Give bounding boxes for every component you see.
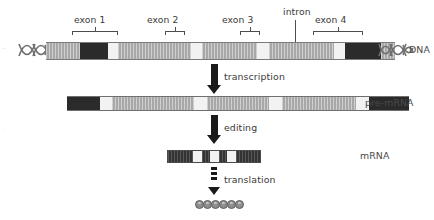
transcription-label: transcription: [224, 71, 285, 82]
exon-3-label: exon 3: [222, 14, 253, 25]
page-margin-artifact: –: [2, 44, 5, 51]
segment-light: [210, 151, 219, 162]
translation-label: translation: [224, 174, 276, 185]
exon-2-bracket: [165, 27, 185, 36]
segment-mid: [207, 97, 269, 110]
segment-mid: [112, 97, 194, 110]
pre-mrna-row-label: pre-mRNA: [365, 97, 414, 108]
segment-light: [108, 43, 119, 59]
segment-light: [100, 97, 112, 110]
segment-dark: [236, 151, 260, 162]
segment-mid: [269, 43, 334, 59]
segment-dark: [345, 43, 380, 59]
mrna-row-label: mRNA: [360, 150, 389, 161]
exon-1-bracket: [72, 27, 118, 36]
editing-label: editing: [224, 122, 257, 133]
exon-2-label: exon 2: [147, 14, 178, 25]
segment-mid: [46, 43, 80, 59]
polypeptide-chain: [195, 200, 243, 209]
segment-dark: [219, 151, 227, 162]
transcription-arrow: [203, 64, 225, 94]
segment-dark: [67, 97, 100, 110]
editing-arrow: [203, 115, 225, 144]
gene-expression-diagram: – · exon 1 exon 2 exon 3 exon 4 intron: [0, 0, 434, 220]
segment-light: [194, 97, 207, 110]
mrna-strand: [167, 150, 261, 163]
segment-light: [257, 43, 268, 59]
exon-4-label: exon 4: [315, 14, 346, 25]
dna-strand: [46, 42, 395, 60]
page-margin-artifact: ·: [2, 126, 4, 133]
segment-dark: [202, 151, 210, 162]
dna-row-label: DNA: [409, 44, 430, 55]
segment-light: [191, 43, 202, 59]
segment-light: [269, 97, 282, 110]
pre-mrna-strand: [67, 96, 409, 111]
segment-mid: [118, 43, 190, 59]
segment-light: [334, 43, 345, 59]
segment-light: [193, 151, 202, 162]
translation-arrow: [206, 167, 222, 195]
exon-4-bracket: [313, 27, 363, 36]
intron-label: intron: [283, 6, 311, 17]
exon-3-bracket: [240, 27, 260, 36]
segment-mid: [202, 43, 257, 59]
segment-dark: [80, 43, 108, 59]
segment-dark: [168, 151, 193, 162]
segment-mid: [282, 97, 356, 110]
segment-light: [227, 151, 236, 162]
amino-acid-residue: [235, 200, 244, 209]
exon-1-label: exon 1: [74, 14, 105, 25]
